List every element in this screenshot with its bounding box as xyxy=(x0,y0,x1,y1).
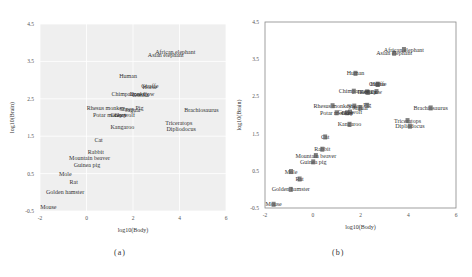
data-point: Kangaroo xyxy=(338,121,362,127)
point-marker xyxy=(429,105,433,110)
x-axis-label: log10(Body) xyxy=(345,224,376,231)
point-marker xyxy=(348,122,352,127)
data-point: Mountain beaver xyxy=(69,155,110,161)
point-marker xyxy=(359,105,363,110)
point-marker xyxy=(314,153,318,158)
point-label: Giraffe xyxy=(141,83,159,89)
data-point: African elephant xyxy=(384,47,424,53)
data-point: Pig xyxy=(363,102,371,108)
point-marker xyxy=(402,47,406,52)
data-point: Rat xyxy=(295,176,304,182)
y-tick-label: 1.5 xyxy=(252,131,259,137)
data-point: Dipliodocus xyxy=(395,123,425,129)
data-point: Rhesus monkey xyxy=(313,103,351,109)
data-point: Potar monkey xyxy=(93,112,127,118)
data-point: Mouse xyxy=(265,201,282,207)
point-marker xyxy=(320,147,324,152)
x-tick-label: 6 xyxy=(455,212,458,218)
point-marker xyxy=(335,110,339,115)
x-tick-label: 0 xyxy=(85,215,88,221)
y-tick-label: 0.5 xyxy=(252,168,259,174)
data-point: Potar monkey xyxy=(320,110,354,116)
point-label: Potar monkey xyxy=(93,112,127,118)
point-marker xyxy=(331,103,335,108)
point-marker xyxy=(298,176,302,181)
point-label: Guinea pig xyxy=(74,162,101,168)
x-tick-label: 2 xyxy=(132,215,135,221)
point-label: Brachiosaurus xyxy=(184,107,219,113)
x-tick-label: 4 xyxy=(407,212,410,218)
data-point: Dipliodocus xyxy=(166,126,196,132)
data-point: Mole xyxy=(59,171,72,177)
point-marker xyxy=(311,159,315,164)
data-point: Cat xyxy=(321,134,330,140)
y-tick-label: 4.5 xyxy=(252,19,259,25)
point-label: Rat xyxy=(70,179,79,185)
data-point: Human xyxy=(347,70,365,76)
point-label: Chimpanzee xyxy=(111,91,141,97)
x-tick-label: -2 xyxy=(263,212,268,218)
point-label: Human xyxy=(119,73,137,79)
x-axis-label: log10(Body) xyxy=(118,227,149,234)
data-point: Triceratops xyxy=(394,118,422,124)
data-point: Chimpanzee xyxy=(111,91,141,97)
caption-b: (b) xyxy=(332,248,344,257)
data-point: Kangaroo xyxy=(110,124,134,130)
scatter-plot-b: -20246-0.50.51.52.53.54.5log10(Body)log1… xyxy=(236,0,472,277)
point-label: Mountain beaver xyxy=(69,155,110,161)
point-marker xyxy=(406,118,410,123)
data-point: Mountain beaver xyxy=(295,153,336,159)
data-point: Giraffe xyxy=(369,81,387,87)
y-tick-label: -0.5 xyxy=(250,205,259,211)
figure-b: -20246-0.50.51.52.53.54.5log10(Body)log1… xyxy=(236,0,472,277)
point-marker xyxy=(408,124,412,129)
data-point: Guinea pig xyxy=(74,162,101,168)
point-marker xyxy=(272,202,276,207)
y-tick-label: 2.5 xyxy=(252,93,259,99)
x-tick-label: 4 xyxy=(178,215,181,221)
point-marker xyxy=(365,103,369,108)
data-point: Guinea pig xyxy=(300,159,327,165)
data-point: Rat xyxy=(70,179,79,185)
x-tick-label: 2 xyxy=(359,212,362,218)
data-point: Mouse xyxy=(40,204,57,210)
data-point: Pig xyxy=(136,105,144,111)
point-marker xyxy=(323,134,327,139)
y-tick-label: -0.5 xyxy=(25,208,34,214)
point-label: Pig xyxy=(136,105,144,111)
data-point: Mole xyxy=(285,169,298,175)
point-marker xyxy=(352,89,356,94)
scatter-plot-a: -20246-0.50.51.52.53.54.5log10(Body)log1… xyxy=(0,0,236,277)
x-tick-label: -2 xyxy=(38,215,43,221)
point-label: Cat xyxy=(94,137,103,143)
point-label: Triceratops xyxy=(165,120,193,126)
point-marker xyxy=(289,187,293,192)
data-point: Golden hamster xyxy=(46,189,84,195)
data-point: Triceratops xyxy=(165,120,193,126)
point-label: Rabbit xyxy=(88,149,104,155)
point-marker xyxy=(376,82,380,87)
y-axis-label: log10(Brain) xyxy=(236,100,243,131)
point-label: African elephant xyxy=(155,49,195,55)
x-tick-label: 6 xyxy=(225,215,228,221)
y-axis-label: log10(Brain) xyxy=(9,102,16,133)
point-marker xyxy=(353,71,357,76)
point-label: Mole xyxy=(59,171,72,177)
y-tick-label: 2.5 xyxy=(27,96,34,102)
y-tick-label: 1.5 xyxy=(27,133,34,139)
data-point: African elephant xyxy=(155,49,195,55)
data-point: Chimpanzee xyxy=(339,88,369,94)
x-tick-label: 0 xyxy=(311,212,314,218)
data-point: Golden hamster xyxy=(272,186,310,192)
y-tick-label: 0.5 xyxy=(27,171,34,177)
data-point: Cat xyxy=(94,137,103,143)
data-point: Rabbit xyxy=(314,146,330,152)
point-label: Dipliodocus xyxy=(166,126,196,132)
point-marker xyxy=(289,169,293,174)
point-label: Golden hamster xyxy=(46,189,84,195)
y-tick-label: 3.5 xyxy=(27,58,34,64)
data-point: Rabbit xyxy=(88,149,104,155)
data-point: Brachiosaurus xyxy=(184,107,219,113)
y-tick-label: 3.5 xyxy=(252,56,259,62)
point-label: Kangaroo xyxy=(110,124,134,130)
